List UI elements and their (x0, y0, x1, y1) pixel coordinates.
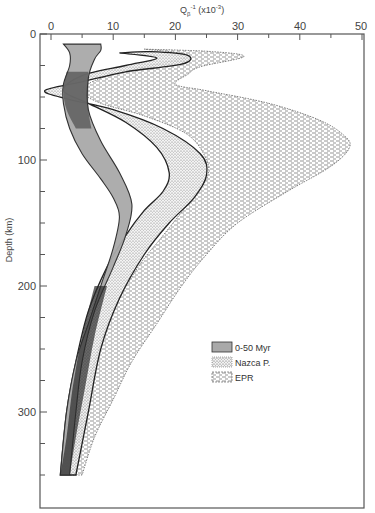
legend-swatch-dots (212, 357, 232, 367)
q-profile-chart: Qβ-1 (x10-3) 0 10 20 30 40 50 0 100 200 … (0, 0, 375, 513)
x-tick-labels: 0 10 20 30 40 50 (48, 20, 367, 32)
legend-item-0-50-myr: 0-50 Myr (212, 342, 271, 353)
x-tick-label: 50 (355, 20, 367, 32)
y-axis-title: Depth (km) (4, 218, 14, 263)
y-tick-labels: 0 100 200 300 (18, 28, 36, 418)
x-tick-label: 20 (169, 20, 181, 32)
legend: 0-50 Myr Nazca P. EPR (212, 342, 271, 383)
x-tick-label: 40 (294, 20, 306, 32)
svg-text:0-50 Myr: 0-50 Myr (235, 343, 271, 353)
series-layer (45, 44, 351, 475)
x-tick-label: 30 (232, 20, 244, 32)
legend-item-nazca: Nazca P. (212, 357, 270, 368)
legend-item-epr: EPR (212, 372, 254, 383)
legend-swatch-dashed (212, 372, 232, 382)
y-tick-label: 200 (18, 280, 36, 292)
x-axis-title: Qβ-1 (x10-3) (180, 4, 224, 17)
x-tick-label: 0 (48, 20, 54, 32)
y-tick-label: 300 (18, 406, 36, 418)
y-axis-ticks (40, 34, 47, 475)
y-tick-label: 100 (18, 154, 36, 166)
svg-text:Qβ-1 (x10-3): Qβ-1 (x10-3) (180, 4, 224, 17)
x-axis-ticks (51, 34, 362, 40)
x-tick-label: 10 (107, 20, 119, 32)
legend-swatch-gray (212, 342, 232, 352)
svg-text:EPR: EPR (235, 373, 254, 383)
svg-text:Nazca P.: Nazca P. (235, 358, 270, 368)
y-tick-label: 0 (30, 28, 36, 40)
